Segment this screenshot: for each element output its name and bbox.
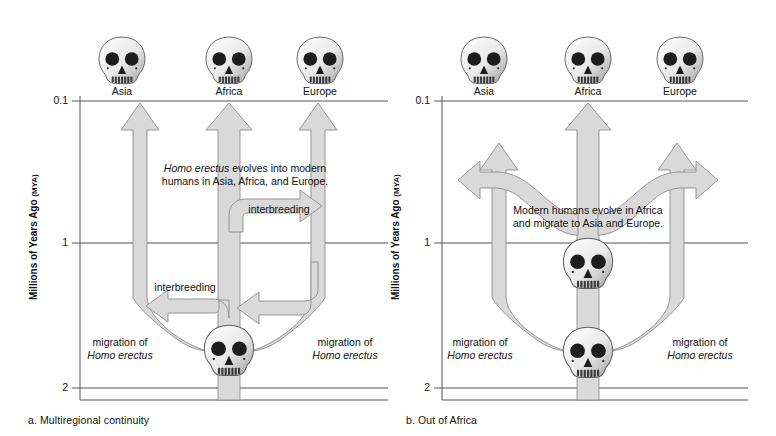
figure-root: Millions of Years Ago (MYA) 0.1 1 2 Asia…	[0, 0, 776, 436]
annotation-main-a: Homo erectus evolves into modern humans …	[162, 162, 328, 188]
y-tick-2-a: 2	[38, 381, 68, 393]
migration-note-left-b: migration of Homo erectus	[447, 336, 512, 361]
migration-note-left-b-line2: Homo erectus	[447, 349, 512, 361]
region-label-asia-b: Asia	[474, 85, 494, 97]
panel-out-of-africa: Millions of Years Ago (MYA) 0.1 1 2 Asia…	[388, 0, 776, 436]
annotation-species-a: Homo erectus	[164, 162, 229, 174]
y-tick-1-b: 1	[400, 236, 430, 248]
migration-note-right-a-line1: migration of	[312, 336, 377, 349]
skull-europe-a	[297, 37, 343, 84]
region-label-europe-b: Europe	[663, 85, 697, 97]
skull-asia-b	[461, 37, 507, 84]
y-tick-0.1-a: 0.1	[38, 94, 68, 106]
migration-note-right-a-line2: Homo erectus	[312, 349, 377, 361]
y-tick-0.1-b: 0.1	[400, 94, 430, 106]
caption-panel-a: a. Multiregional continuity	[28, 414, 149, 426]
migration-note-right-a: migration of Homo erectus	[312, 336, 377, 361]
y-axis-label-unit-a: (MYA)	[30, 174, 39, 196]
skull-africa-b	[565, 37, 611, 84]
skull-root-homo-erectus-b	[563, 327, 612, 377]
panel-a-graphic	[0, 0, 388, 436]
skull-europe-b	[657, 37, 703, 84]
region-label-asia-a: Asia	[112, 85, 132, 97]
annotation-main-a-line1: evolves into modern	[229, 162, 326, 174]
y-tick-2-b: 2	[400, 381, 430, 393]
skull-africa-a	[206, 37, 252, 84]
annotation-main-b-line2: and migrate to Asia and Europe.	[513, 217, 663, 230]
y-tick-1-a: 1	[38, 236, 68, 248]
y-axis-label-main-b: Millions of Years Ago	[390, 199, 401, 300]
migration-note-left-a: migration of Homo erectus	[87, 336, 152, 361]
skull-modern-humans-b	[563, 238, 612, 288]
y-axis-label-unit-b: (MYA)	[392, 174, 401, 196]
migration-note-left-a-line2: Homo erectus	[87, 349, 152, 361]
annotation-main-b-line1: Modern humans evolve in Africa	[513, 204, 663, 217]
migration-note-left-b-line1: migration of	[447, 336, 512, 349]
caption-panel-b: b. Out of Africa	[406, 414, 477, 426]
annotation-main-b: Modern humans evolve in Africa and migra…	[513, 204, 663, 230]
annotation-main-a-line2: humans in Asia, Africa, and Europe.	[162, 175, 328, 188]
interbreeding-label-upper-a: interbreeding	[248, 203, 309, 215]
panel-multiregional-continuity: Millions of Years Ago (MYA) 0.1 1 2 Asia…	[0, 0, 388, 436]
skull-root-homo-erectus-a	[204, 325, 253, 375]
migration-note-left-a-line1: migration of	[87, 336, 152, 349]
region-label-europe-a: Europe	[303, 85, 337, 97]
skull-asia-a	[99, 37, 145, 84]
migration-note-right-b: migration of Homo erectus	[667, 336, 732, 361]
migration-note-right-b-line2: Homo erectus	[667, 349, 732, 361]
migration-note-right-b-line1: migration of	[667, 336, 732, 349]
y-axis-label-main-a: Millions of Years Ago	[28, 199, 39, 300]
region-label-africa-b: Africa	[575, 85, 602, 97]
region-label-africa-a: Africa	[216, 85, 243, 97]
interbreeding-label-lower-a: interbreeding	[154, 281, 215, 293]
